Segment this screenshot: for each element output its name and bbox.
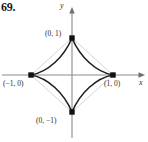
marker-left-cusp <box>28 72 33 77</box>
point-label-left-cusp: (−1, 0) <box>3 80 23 88</box>
point-label-top-cusp: (0, 1) <box>45 30 61 38</box>
marker-top-cusp <box>69 35 74 40</box>
x-axis-label: x <box>139 79 143 87</box>
astroid-plot <box>0 0 148 142</box>
y-axis-label: y <box>60 2 64 10</box>
x-axis <box>2 72 145 77</box>
marker-bottom-cusp <box>69 109 74 114</box>
y-axis <box>69 7 74 138</box>
marker-right-cusp <box>110 72 115 77</box>
point-label-bottom-cusp: (0, −1) <box>36 117 56 125</box>
point-label-right-cusp: (1, 0) <box>104 80 120 88</box>
figure-container: 69. <box>0 0 148 142</box>
